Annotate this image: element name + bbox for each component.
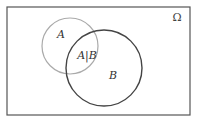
set-a-label: A — [56, 28, 65, 41]
intersection-label: A|B — [76, 49, 97, 63]
set-a-circle — [42, 18, 98, 74]
venn-diagram: Ω A A|B B — [0, 0, 199, 122]
set-b-circle — [66, 30, 142, 106]
universe-rectangle — [7, 7, 190, 115]
set-b-label: B — [108, 69, 117, 82]
omega-label: Ω — [172, 11, 181, 24]
